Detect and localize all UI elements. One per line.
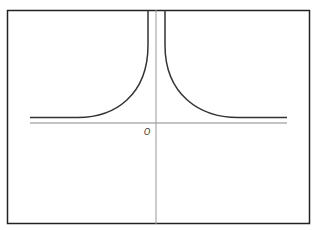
graph-diagram: O: [0, 0, 313, 230]
origin-label: O: [144, 128, 150, 137]
